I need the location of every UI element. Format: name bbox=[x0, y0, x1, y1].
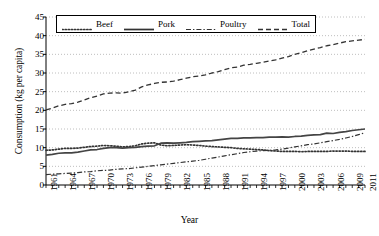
legend-item-total: Total bbox=[258, 20, 310, 29]
x-tick-label: 1979 bbox=[164, 173, 173, 191]
x-tick-label: 1976 bbox=[145, 173, 154, 191]
x-tick-label: 2003 bbox=[317, 173, 326, 191]
x-tick-label: 1970 bbox=[107, 173, 116, 191]
x-tick-label: 1985 bbox=[203, 173, 212, 191]
legend-item-pork: Pork bbox=[124, 20, 175, 29]
x-tick-label: 2006 bbox=[337, 173, 346, 191]
x-tick-label: 1994 bbox=[260, 173, 269, 191]
legend-label: Poultry bbox=[220, 20, 247, 29]
legend-label: Total bbox=[292, 20, 310, 29]
legend-swatch-beef bbox=[62, 20, 92, 29]
legend-label: Pork bbox=[158, 20, 175, 29]
x-tick-label: 1961 bbox=[50, 173, 59, 191]
x-tick-label: 1997 bbox=[279, 173, 288, 191]
x-tick-label: 1973 bbox=[126, 173, 135, 191]
legend-swatch-total bbox=[258, 20, 288, 29]
x-axis-tick-labels: 1961196419671970197319761979198219851988… bbox=[0, 0, 379, 236]
legend-label: Beef bbox=[96, 20, 113, 29]
x-tick-label: 2009 bbox=[356, 173, 365, 191]
x-tick-label: 1982 bbox=[183, 173, 192, 191]
legend-item-poultry: Poultry bbox=[186, 20, 247, 29]
legend-item-beef: Beef bbox=[62, 20, 113, 29]
x-tick-label: 1967 bbox=[88, 173, 97, 191]
x-tick-label: 1991 bbox=[241, 173, 250, 191]
x-tick-label: 1964 bbox=[69, 173, 78, 191]
legend-swatch-pork bbox=[124, 20, 154, 29]
x-tick-label: 1988 bbox=[222, 173, 231, 191]
consumption-line-chart: Consumption (kg per capita) Year 0510152… bbox=[0, 0, 379, 236]
chart-legend: BeefPorkPoultryTotal bbox=[56, 15, 316, 33]
x-tick-label: 2000 bbox=[298, 173, 307, 191]
legend-swatch-poultry bbox=[186, 20, 216, 29]
x-tick-label: 2011 bbox=[369, 173, 378, 191]
